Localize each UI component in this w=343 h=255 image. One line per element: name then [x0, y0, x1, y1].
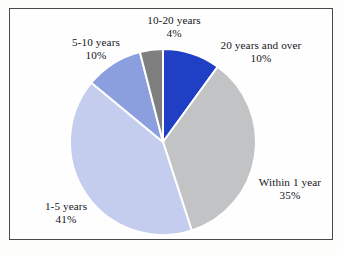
pie-label-5-10-years-value: 10%	[44, 49, 148, 62]
pie-label-10-20-years-name: 10-20 years	[122, 14, 226, 27]
pie-label-20-years-and-over: 20 years and over 10%	[190, 39, 332, 64]
pie-label-within-1-year-name: Within 1 year	[242, 176, 338, 189]
pie-label-within-1-year-value: 35%	[242, 189, 338, 202]
pie-label-20-years-and-over-value: 10%	[190, 52, 332, 65]
pie-label-1-5-years-name: 1-5 years	[14, 200, 118, 213]
pie-chart-figure: 10-20 years 4% 20 years and over 10% 5-1…	[0, 0, 343, 255]
pie-label-5-10-years-name: 5-10 years	[44, 36, 148, 49]
pie-label-20-years-and-over-name: 20 years and over	[190, 39, 332, 52]
pie-label-1-5-years-value: 41%	[14, 213, 118, 226]
pie-label-1-5-years: 1-5 years 41%	[14, 200, 118, 225]
pie-label-5-10-years: 5-10 years 10%	[44, 36, 148, 61]
pie-label-within-1-year: Within 1 year 35%	[242, 176, 338, 201]
